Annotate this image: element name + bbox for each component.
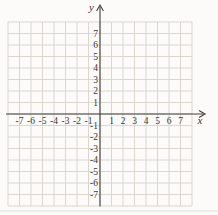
x-tick-label: 7 <box>178 116 183 126</box>
coordinate-grid: -7-6-5-4-3-2-112345677654321-1-2-3-4-5-6… <box>0 0 218 215</box>
x-tick-label: 2 <box>121 116 126 126</box>
y-tick-label: -1 <box>90 121 98 131</box>
x-tick-label: -3 <box>62 116 70 126</box>
x-tick-label: 3 <box>132 116 137 126</box>
y-tick-label: -3 <box>90 144 98 154</box>
y-axis-label: y <box>88 1 94 13</box>
y-tick-label: 5 <box>93 52 98 62</box>
x-tick-label: 5 <box>155 116 160 126</box>
y-tick-label: -5 <box>90 167 98 177</box>
y-tick-label: 4 <box>93 63 98 73</box>
x-tick-label: -5 <box>39 116 47 126</box>
y-tick-label: -2 <box>90 132 98 142</box>
x-axis-label: x <box>197 114 203 126</box>
x-tick-label: 6 <box>167 116 172 126</box>
y-tick-label: 7 <box>93 29 98 39</box>
worksheet-page: -7-6-5-4-3-2-112345677654321-1-2-3-4-5-6… <box>0 0 218 215</box>
x-tick-label: 4 <box>144 116 149 126</box>
y-tick-label: 1 <box>93 98 98 108</box>
x-tick-label: -4 <box>50 116 58 126</box>
y-tick-label: -7 <box>90 190 98 200</box>
y-tick-label: 3 <box>93 75 98 85</box>
y-tick-label: 6 <box>93 40 98 50</box>
y-tick-label: -4 <box>90 155 98 165</box>
x-tick-label: -2 <box>73 116 81 126</box>
x-tick-label: 1 <box>109 116 114 126</box>
x-tick-label: -6 <box>27 116 35 126</box>
y-tick-label: -6 <box>90 178 98 188</box>
y-tick-label: 2 <box>93 86 98 96</box>
x-tick-label: -7 <box>16 116 24 126</box>
